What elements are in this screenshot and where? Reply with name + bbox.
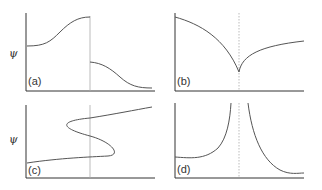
panel-a-y-axis-label: ψ <box>9 47 18 60</box>
panel-b-label: (b) <box>177 75 190 87</box>
panel-b-curve-right <box>239 41 304 72</box>
panel-c-label: (c) <box>28 164 41 176</box>
panel-b <box>175 13 304 91</box>
panel-b-curve-left <box>175 17 239 72</box>
panel-d-curve-left <box>175 103 231 158</box>
panel-a <box>26 13 155 91</box>
panel-a-curve-left <box>27 17 90 46</box>
panel-a-curve-right <box>90 62 152 88</box>
panel-c <box>26 105 155 178</box>
panel-d-axes <box>175 103 304 178</box>
panel-d-curve-right <box>248 103 304 173</box>
panel-c-y-axis-label: ψ <box>9 133 18 146</box>
panel-c-s-curve <box>27 107 152 163</box>
panel-a-axes <box>26 13 155 91</box>
diagram-canvas <box>0 0 322 190</box>
panel-c-axes <box>26 105 155 178</box>
panel-d <box>175 103 304 178</box>
panel-d-label: (d) <box>177 163 190 175</box>
panel-a-label: (a) <box>28 75 41 87</box>
